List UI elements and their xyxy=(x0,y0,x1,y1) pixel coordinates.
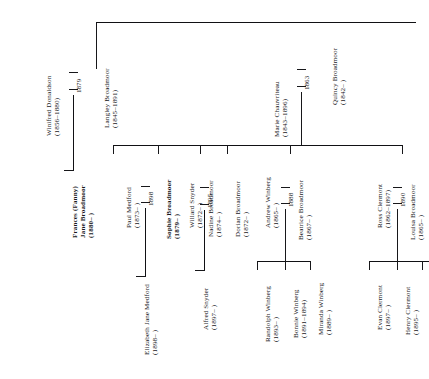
child-stub-bonnie xyxy=(285,261,286,270)
person-dates: (1879– ) xyxy=(174,180,182,240)
person-dates: (1897– ) xyxy=(211,288,219,330)
person-langley-broadmoor: Langley Broadmoor (1845–1891) xyxy=(104,68,120,128)
marriage-tick-1898-upper xyxy=(141,186,150,187)
person-dorian-broadmoor: Dorian Broadmoor (1872– ) xyxy=(235,181,251,237)
person-alfred-snyder: Alfred Snyder (1897– ) xyxy=(203,288,219,330)
marriage-tick-1890-upper xyxy=(393,187,402,188)
person-dates: (1880– ) xyxy=(88,185,96,238)
person-dates: (1891–1894) xyxy=(301,289,309,338)
person-louisa-broadmoor: Louisa Broadmoor (1865– ) xyxy=(410,184,426,240)
child-stub-henry xyxy=(397,261,398,270)
person-nadine-broadmoor: Nadine Broadmoor (1874– ) xyxy=(208,180,224,237)
person-dates: (1873– ) xyxy=(134,187,142,228)
descent-line-gen1 xyxy=(301,92,302,145)
person-dates: (1843–1896) xyxy=(282,81,290,137)
marriage-year-1895: 1895 xyxy=(207,194,215,208)
person-dates: (1893– ) xyxy=(273,286,281,342)
person-henry-clermont: Henry Clermont (1895– ) xyxy=(405,287,421,335)
marriage-year-1890: 1890 xyxy=(400,193,408,207)
child-stub-clipped xyxy=(422,261,423,270)
marriage-year-1898: 1898 xyxy=(148,192,156,206)
person-miranda-winberg: Miranda Winberg (1889– ) xyxy=(318,283,334,335)
person-dates: (1856–1880) xyxy=(54,76,62,136)
person-dates: (1889– ) xyxy=(326,283,334,335)
person-evan-clermont: Evan Clermont (1897– ) xyxy=(377,285,393,330)
child-stub-louisa xyxy=(402,145,403,154)
descent-line-elizabeth xyxy=(145,208,146,276)
person-frances-broadmoor: Frances (Fanny) Jane Broadmoor (1880– ) xyxy=(72,185,95,238)
marriage-tick-1888-upper xyxy=(281,187,290,188)
marriage-year-1863: 1863 xyxy=(304,76,312,90)
child-tick-frances xyxy=(64,170,74,171)
person-dates: (1897– ) xyxy=(385,285,393,330)
person-dates: (1874– ) xyxy=(216,180,224,237)
marriage-tick-1879-upper xyxy=(69,72,78,73)
person-dates: (1862–1897) xyxy=(385,184,393,228)
person-marie-chauvriteau: Marie Chauvriteau (1843–1896) xyxy=(274,81,290,137)
child-stub-beatrice xyxy=(290,145,291,154)
person-dates: (1845–1891) xyxy=(112,68,120,128)
person-sophie-broadmoor: Sophie Broadmoor (1879– ) xyxy=(166,180,182,240)
descent-line-winberg xyxy=(285,209,286,261)
child-stub-miranda xyxy=(310,261,311,270)
person-beatrice-broadmoor: Beatrice Broadmoor (1867– ) xyxy=(298,180,314,240)
person-dates: (1898– ) xyxy=(152,284,160,355)
person-andrew-winberg: Andrew Winberg (1865– ) xyxy=(265,177,281,228)
marriage-year-1879: 1879 xyxy=(76,79,84,93)
child-stub-randolph xyxy=(257,261,258,270)
descent-line-clermont xyxy=(397,209,398,261)
child-stub-langley xyxy=(113,145,114,154)
descent-line-alfred xyxy=(204,210,205,270)
sibling-bar-clermont xyxy=(369,261,429,262)
person-dates: (1865– ) xyxy=(273,177,281,228)
marriage-tick-1863-upper xyxy=(297,69,306,70)
person-paul-medford: Paul Medford (1873– ) xyxy=(126,187,142,228)
child-tick-elizabeth xyxy=(136,276,146,277)
person-randolph-winberg: Randolph Winberg (1893– ) xyxy=(265,286,281,342)
person-bonnie-winberg: Bonnie Winberg (1891–1894) xyxy=(293,289,309,338)
person-elizabeth-medford: Elizabeth Jane Medford (1898– ) xyxy=(144,284,160,355)
marriage-year-1888: 1888 xyxy=(288,193,296,207)
child-tick-alfred xyxy=(195,270,205,271)
top-spine xyxy=(96,22,416,23)
sibling-bar-gen2 xyxy=(113,145,403,146)
sibling-bar-winberg xyxy=(257,261,311,262)
child-stub-evan xyxy=(369,261,370,270)
person-quincy-broadmoor: Quincy Broadmoor (1842– ) xyxy=(332,48,348,105)
person-ross-clermont: Ross Clermont (1862–1897) xyxy=(377,184,393,228)
marriage-tick-1895-upper xyxy=(200,187,209,188)
person-dates: (1865– ) xyxy=(418,184,426,240)
family-tree-canvas: Quincy Broadmoor (1842– ) Marie Chauvrit… xyxy=(0,0,429,379)
child-stub-dorian xyxy=(227,145,228,154)
person-dates: (1872– ) xyxy=(243,181,251,237)
person-dates: (1842– ) xyxy=(340,48,348,105)
person-dates: (1895– ) xyxy=(413,287,421,335)
connector-langley-up xyxy=(96,22,97,69)
child-stub-nadine xyxy=(200,145,201,154)
person-willard-snyder: Willard Snyder (1872– ) xyxy=(189,183,205,228)
person-winifred-donaldson: Winifred Donaldson (1856–1880) xyxy=(46,76,62,136)
child-stub-sophie xyxy=(158,145,159,154)
person-dates: (1867– ) xyxy=(306,180,314,240)
descent-line-frances xyxy=(73,95,74,170)
